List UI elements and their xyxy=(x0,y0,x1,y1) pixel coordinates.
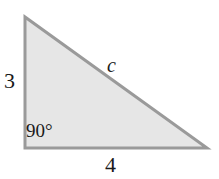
geometry-figure: 3 c 90° 4 xyxy=(0,0,219,179)
label-horizontal-leg: 4 xyxy=(105,154,116,176)
label-right-angle: 90° xyxy=(26,121,53,140)
label-hypotenuse: c xyxy=(107,55,116,75)
label-vertical-leg: 3 xyxy=(4,70,15,92)
